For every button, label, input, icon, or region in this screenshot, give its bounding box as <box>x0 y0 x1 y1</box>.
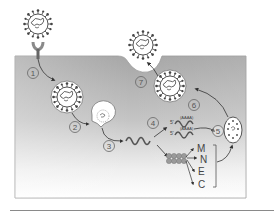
svg-text:3: 3 <box>107 142 112 151</box>
protein-n-label: N <box>200 154 207 165</box>
svg-text:5': 5' <box>170 130 174 136</box>
svg-text:6: 6 <box>192 101 197 110</box>
svg-text:(AAAA): (AAAA) <box>180 115 194 120</box>
svg-text:5': 5' <box>170 119 174 125</box>
bottom-divider <box>10 210 274 211</box>
virus-replication-diagram: 1 2 3 4 5' (AAAA) 5' (AAAA) <box>0 0 274 213</box>
endosome-virion-icon <box>52 82 82 112</box>
mature-virion-icon <box>155 71 185 101</box>
svg-text:(AAAA): (AAAA) <box>180 126 194 131</box>
svg-text:5: 5 <box>216 127 221 136</box>
protein-c-label: C <box>198 179 205 190</box>
svg-text:4: 4 <box>151 119 156 128</box>
released-virion-icon <box>128 30 158 60</box>
svg-text:2: 2 <box>73 123 78 132</box>
svg-text:7: 7 <box>139 78 144 87</box>
virion-attaching-icon <box>23 9 53 39</box>
step-5-badge: 5 <box>213 126 224 137</box>
svg-text:1: 1 <box>31 69 36 78</box>
assembly-vesicle-icon <box>224 117 242 143</box>
protein-e-label: E <box>198 166 205 177</box>
protein-m-label: M <box>197 143 205 154</box>
